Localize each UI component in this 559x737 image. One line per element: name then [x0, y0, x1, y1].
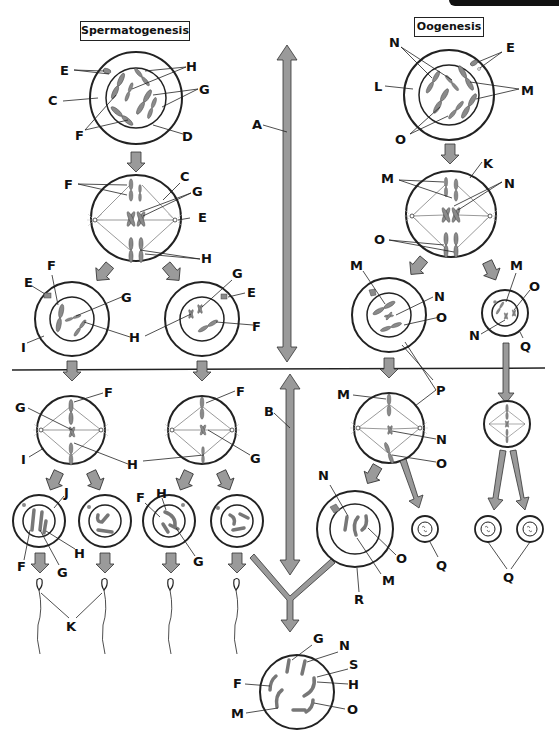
svg-text:G: G — [250, 451, 261, 466]
svg-text:F: F — [104, 385, 113, 400]
svg-text:M: M — [521, 83, 534, 98]
polar-body-arrow — [498, 343, 514, 403]
svg-text:G: G — [57, 565, 68, 580]
svg-text:Q: Q — [520, 339, 531, 354]
arrow-a: A — [252, 45, 297, 362]
sperm-meiosis-1: F C G E H — [64, 169, 212, 266]
svg-text:H: H — [201, 251, 212, 266]
svg-text:E: E — [24, 275, 33, 290]
svg-text:L: L — [374, 79, 382, 94]
svg-text:G: G — [193, 554, 204, 569]
svg-text:F: F — [17, 559, 26, 574]
svg-text:O: O — [374, 232, 385, 247]
svg-text:F: F — [47, 258, 56, 273]
svg-text:Q: Q — [503, 570, 514, 585]
svg-text:H: H — [127, 457, 138, 472]
svg-text:F: F — [236, 384, 245, 399]
svg-text:N: N — [504, 176, 515, 191]
svg-text:M: M — [231, 706, 244, 721]
svg-text:H: H — [156, 486, 167, 501]
svg-text:D: D — [182, 129, 193, 144]
first-polar-body: M O N Q — [469, 258, 540, 354]
svg-text:M: M — [350, 258, 363, 273]
secondary-spermatocyte-right: G E F — [145, 266, 261, 356]
svg-text:F: F — [64, 177, 73, 192]
polar-bodies-final: Q Q — [412, 516, 543, 585]
gametogenesis-diagram: A B E H C — [0, 0, 559, 737]
svg-text:N: N — [318, 468, 329, 483]
svg-text:H: H — [186, 59, 197, 74]
oo-meiosis-1: M K N O — [374, 156, 515, 258]
arrow-b: B — [264, 374, 300, 575]
primary-spermatocyte: E H C G F D — [48, 52, 210, 144]
svg-text:J: J — [63, 485, 69, 500]
primary-oocyte: N E L M O — [374, 35, 534, 147]
svg-text:F: F — [252, 319, 261, 334]
spermatids: J F G H F H G — [13, 485, 263, 580]
svg-text:F: F — [136, 490, 145, 505]
svg-text:M: M — [381, 171, 394, 186]
polar-meiosis-2 — [484, 401, 530, 447]
svg-text:O: O — [529, 279, 540, 294]
divider-line — [12, 368, 545, 370]
label-k: K — [66, 619, 77, 634]
svg-text:H: H — [129, 330, 140, 345]
svg-text:M: M — [337, 387, 350, 402]
label-b: B — [264, 404, 274, 419]
svg-text:N: N — [339, 638, 350, 653]
label-a: A — [252, 117, 262, 132]
svg-text:E: E — [198, 210, 207, 225]
zygote: G N S H F O M — [231, 631, 359, 729]
sperm-cells — [37, 579, 239, 655]
secondary-spermatocyte-left: E F G I H — [21, 258, 140, 356]
svg-text:O: O — [396, 551, 407, 566]
svg-text:N: N — [436, 432, 447, 447]
svg-text:I: I — [21, 340, 26, 355]
svg-text:G: G — [232, 266, 243, 281]
svg-text:G: G — [313, 631, 324, 646]
svg-text:E: E — [60, 63, 69, 78]
svg-text:O: O — [347, 702, 358, 717]
svg-text:K: K — [483, 156, 494, 171]
svg-text:Q: Q — [436, 558, 447, 573]
svg-text:C: C — [48, 93, 58, 108]
svg-text:G: G — [15, 400, 26, 415]
svg-text:G: G — [199, 82, 210, 97]
svg-text:O: O — [436, 456, 447, 471]
svg-text:G: G — [192, 184, 203, 199]
svg-text:H: H — [348, 677, 359, 692]
svg-text:F: F — [233, 676, 242, 691]
svg-text:F: F — [75, 128, 84, 143]
secondary-oocyte: M N O — [350, 258, 447, 380]
svg-text:I: I — [21, 452, 26, 467]
svg-text:S: S — [349, 657, 358, 672]
svg-text:O: O — [436, 310, 447, 325]
svg-text:H: H — [74, 546, 85, 561]
sperm-meiosis-2-left: F G I H — [15, 385, 138, 472]
svg-text:P: P — [436, 383, 446, 398]
svg-text:N: N — [389, 35, 400, 50]
svg-text:E: E — [506, 40, 515, 55]
svg-text:N: N — [469, 328, 480, 343]
svg-text:M: M — [510, 258, 523, 273]
svg-text:C: C — [180, 169, 190, 184]
sperm-meiosis-2-right: F G — [143, 384, 261, 466]
ootid: N O M R — [317, 468, 407, 607]
svg-text:G: G — [121, 290, 132, 305]
svg-text:R: R — [354, 592, 364, 607]
svg-text:O: O — [395, 132, 406, 147]
svg-text:M: M — [382, 573, 395, 588]
svg-text:N: N — [434, 289, 445, 304]
svg-text:E: E — [247, 285, 256, 300]
